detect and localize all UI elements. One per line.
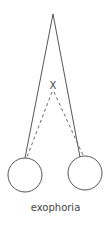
right-deviated-axis [54,92,83,155]
left-deviated-axis [27,92,52,157]
left-eye [8,158,42,192]
fixation-marker: X [50,80,57,91]
right-eye [68,156,102,190]
diagram-caption: exophoria [0,202,111,213]
right-visual-axis [53,14,80,157]
exophoria-diagram: X [0,0,111,229]
